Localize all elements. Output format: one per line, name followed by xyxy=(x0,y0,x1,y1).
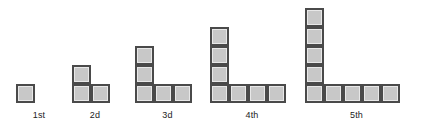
tile-highlight xyxy=(307,10,322,25)
tile xyxy=(248,84,267,103)
tile-highlight xyxy=(93,86,108,101)
tile-highlight xyxy=(383,86,398,101)
tile-highlight xyxy=(345,86,360,101)
figure-1-label: 1st xyxy=(16,110,62,121)
tile-highlight xyxy=(212,86,227,101)
tile xyxy=(173,84,192,103)
figure-4-tiles xyxy=(210,27,286,103)
tile-highlight xyxy=(156,86,171,101)
tile xyxy=(267,84,286,103)
tile xyxy=(210,46,229,65)
tile xyxy=(154,84,173,103)
figure-4-label: 4th xyxy=(210,110,294,121)
tile xyxy=(305,65,324,84)
tile xyxy=(362,84,381,103)
tile-highlight xyxy=(175,86,190,101)
tile-highlight xyxy=(74,67,89,82)
tile xyxy=(135,65,154,84)
tile-highlight xyxy=(307,67,322,82)
tile xyxy=(305,27,324,46)
tile xyxy=(210,27,229,46)
tile xyxy=(91,84,110,103)
tile-highlight xyxy=(250,86,265,101)
tile xyxy=(135,84,154,103)
tile-highlight xyxy=(212,67,227,82)
tile-highlight xyxy=(212,29,227,44)
tile-highlight xyxy=(137,67,152,82)
tile xyxy=(210,65,229,84)
tile xyxy=(305,84,324,103)
tile xyxy=(72,65,91,84)
tile xyxy=(343,84,362,103)
figure-2: 2d xyxy=(72,67,118,125)
tile xyxy=(16,84,35,103)
tile-highlight xyxy=(74,86,89,101)
tile xyxy=(210,84,229,103)
tile-highlight xyxy=(307,29,322,44)
tile-highlight xyxy=(307,86,322,101)
tile-highlight xyxy=(137,86,152,101)
tile-highlight xyxy=(269,86,284,101)
figure-3-tiles xyxy=(135,46,192,103)
tile-highlight xyxy=(231,86,246,101)
pattern-diagram-canvas: 1st2d3d4th5th xyxy=(0,0,426,125)
tile xyxy=(324,84,343,103)
tile xyxy=(381,84,400,103)
figure-5-tiles xyxy=(305,8,400,103)
figure-2-label: 2d xyxy=(72,110,118,121)
tile-highlight xyxy=(137,48,152,63)
tile-highlight xyxy=(212,48,227,63)
figure-2-tiles xyxy=(72,65,110,103)
figure-4: 4th xyxy=(210,29,294,125)
tile-highlight xyxy=(364,86,379,101)
tile xyxy=(135,46,154,65)
tile-highlight xyxy=(326,86,341,101)
figure-5: 5th xyxy=(305,10,408,125)
figure-1-tiles xyxy=(16,84,35,103)
tile xyxy=(72,84,91,103)
tile-highlight xyxy=(18,86,33,101)
tile xyxy=(305,8,324,27)
tile xyxy=(229,84,248,103)
figure-3-label: 3d xyxy=(135,110,200,121)
figure-3: 3d xyxy=(135,48,200,125)
tile xyxy=(305,46,324,65)
figure-1: 1st xyxy=(16,86,62,125)
figure-5-label: 5th xyxy=(305,110,408,121)
tile-highlight xyxy=(307,48,322,63)
